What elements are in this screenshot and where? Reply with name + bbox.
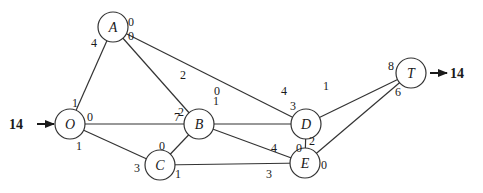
edge-A-B bbox=[113, 27, 199, 124]
edge-label-D-E-at-D: 2 bbox=[309, 134, 315, 148]
node-label-D: D bbox=[300, 117, 311, 132]
edge-label-A-D-at-D: 3 bbox=[290, 99, 296, 113]
edge-label-O-C-at-O: 1 bbox=[76, 139, 82, 153]
edge-label-C-E-at-C: 1 bbox=[175, 167, 181, 181]
edge-label-O-C-at-C: 3 bbox=[134, 161, 140, 175]
edge-label-E-T-at-E: 0 bbox=[321, 158, 327, 172]
edge-label-D-T-at-T: 8 bbox=[388, 59, 394, 73]
node-label-T: T bbox=[407, 66, 416, 81]
edge-label-A-B-at-A: 0 bbox=[128, 29, 134, 43]
edge-label-B-C-at-C: 0 bbox=[159, 139, 165, 153]
edge-B-E bbox=[199, 124, 305, 163]
edge-A-D bbox=[113, 27, 306, 124]
network-flow-diagram: 14 14 O A B C D E T 1 4 0 7 1 3 0 3 0 2 bbox=[0, 0, 483, 193]
sink-flow-label: 14 bbox=[450, 66, 464, 81]
edge-label-D-T-at-D: 1 bbox=[323, 79, 329, 93]
edge-label-D-E-at-E: 0 bbox=[296, 141, 302, 155]
node-label-E: E bbox=[300, 156, 310, 171]
edge-label-O-A-at-A: 4 bbox=[91, 36, 97, 50]
edge-label-B-D-at-D: 4 bbox=[281, 84, 287, 98]
edge-label-B-E-at-E: 4 bbox=[271, 141, 277, 155]
node-label-A: A bbox=[108, 20, 118, 35]
edge-label-O-B-at-O: 0 bbox=[87, 110, 93, 124]
source-flow-label: 14 bbox=[9, 117, 23, 132]
edge-C-E bbox=[160, 163, 305, 165]
node-label-O: O bbox=[65, 117, 75, 132]
edge-label-A-B-at-B: 2 bbox=[180, 68, 186, 82]
node-label-B: B bbox=[195, 117, 204, 132]
edge-label-E-T-at-T: 6 bbox=[395, 85, 401, 99]
edge-label-O-A-at-O: 1 bbox=[72, 96, 78, 110]
node-label-C: C bbox=[155, 158, 165, 173]
edge-label-B-E-at-B: 1 bbox=[213, 94, 219, 108]
edge-label-A-D-at-A: 0 bbox=[128, 15, 134, 29]
edge-label-B-C-at-B: 2 bbox=[178, 105, 184, 119]
edge-label-C-E-at-E: 3 bbox=[266, 167, 272, 181]
